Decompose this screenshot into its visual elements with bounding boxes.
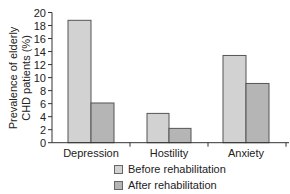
bar-depression-before (68, 20, 91, 142)
bar-hostility-before (147, 113, 169, 142)
legend-item-before: Before rehabilitation (114, 161, 226, 177)
bar-anxiety-after (246, 83, 269, 142)
bars (68, 20, 269, 142)
legend-label-before: Before rehabilitation (128, 162, 226, 177)
x-tick-label-anxiety: Anxiety (228, 147, 265, 159)
y-tick-label: 0 (40, 137, 46, 149)
y-tick-label: 4 (40, 111, 46, 123)
legend-label-after: After rehabilitation (128, 178, 217, 193)
bar-depression-after (91, 103, 114, 143)
bar-anxiety-before (223, 55, 246, 142)
y-axis-label-line-1: Prevalence of elderly (7, 27, 20, 130)
x-axis-labels: DepressionHostilityAnxiety (63, 147, 264, 159)
legend: Before rehabilitation After rehabilitati… (114, 161, 226, 193)
y-tick-label: 8 (40, 85, 46, 97)
legend-swatch-before (114, 165, 123, 174)
y-tick-label: 6 (40, 98, 46, 110)
y-axis-label: Prevalence of elderly CHD patients (%) (2, 8, 38, 148)
legend-swatch-after (114, 181, 123, 190)
x-tick-label-depression: Depression (63, 147, 119, 159)
x-tick-label-hostility: Hostility (150, 147, 189, 159)
legend-item-after: After rehabilitation (114, 177, 226, 193)
y-axis-label-line-2: CHD patients (%) (20, 27, 33, 130)
y-tick-label: 2 (40, 124, 46, 136)
bar-hostility-after (169, 128, 191, 142)
